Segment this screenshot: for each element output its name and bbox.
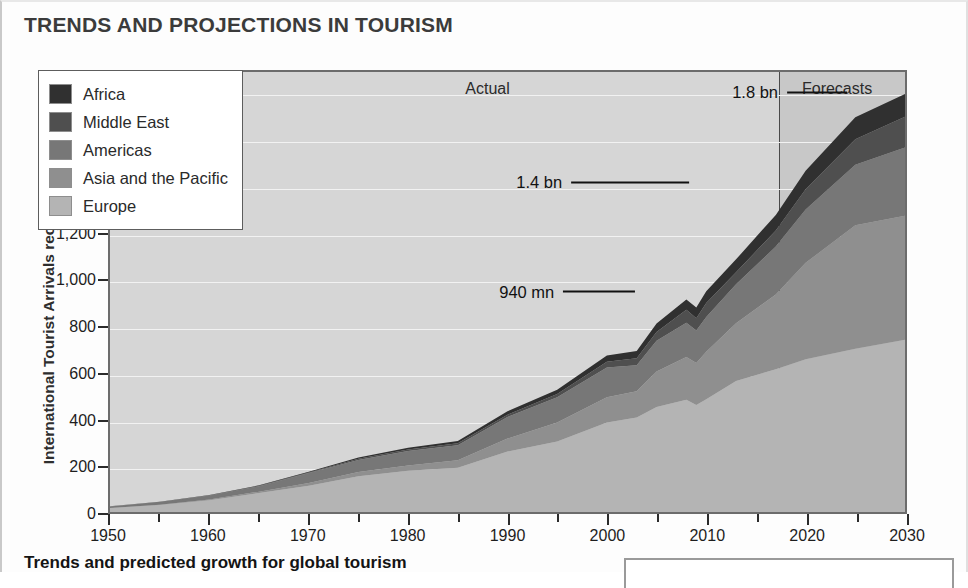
legend-item-label: Europe: [83, 197, 136, 216]
region-label-actual: Actual: [465, 80, 509, 98]
y-axis-tick-mark: [98, 326, 108, 328]
callout-label: 1.4 bn: [516, 173, 562, 192]
legend-item-label: Middle East: [83, 113, 169, 132]
x-axis-tick-mark: [508, 514, 510, 525]
legend-item: Europe: [49, 192, 228, 220]
y-axis-tick-mark: [98, 513, 108, 515]
x-axis-tick-label: 1990: [490, 527, 526, 545]
y-axis-tick-mark: [98, 373, 108, 375]
legend-swatch-icon: [49, 196, 72, 216]
x-axis-minor-tick-mark: [158, 514, 160, 522]
x-axis-tick-mark: [807, 514, 809, 525]
x-axis-tick-mark: [208, 514, 210, 525]
x-axis-tick-label: 2030: [889, 527, 925, 545]
x-axis-tick-label: 2010: [689, 527, 725, 545]
x-axis-tick-label: 1950: [90, 527, 126, 545]
x-axis-tick-mark: [408, 514, 410, 525]
x-axis-tick-label: 2020: [789, 527, 825, 545]
x-axis-minor-tick-mark: [657, 514, 659, 522]
legend-item: Middle East: [49, 108, 228, 136]
caption-side-box: [624, 558, 954, 588]
callout-1-4-bn: 1.4 bn: [516, 173, 689, 192]
y-axis-tick-mark: [98, 466, 108, 468]
legend-swatch-icon: [49, 168, 72, 188]
x-axis-tick-label: 1970: [290, 527, 326, 545]
x-axis-tick-label: 1980: [390, 527, 426, 545]
legend-item: Africa: [49, 80, 228, 108]
x-axis-tick-mark: [308, 514, 310, 525]
callout-940-mn: 940 mn: [499, 282, 635, 301]
chart-legend: AfricaMiddle EastAmericasAsia and the Pa…: [38, 70, 243, 230]
legend-item-label: Africa: [83, 85, 125, 104]
page-title: TRENDS AND PROJECTIONS IN TOURISM: [24, 13, 453, 37]
legend-item: Americas: [49, 136, 228, 164]
figure-caption: Trends and predicted growth for global t…: [24, 553, 407, 573]
chart-container: International Tourist Arrivals received …: [2, 48, 968, 548]
x-axis-tick-mark: [707, 514, 709, 525]
legend-swatch-icon: [49, 84, 72, 104]
legend-item-label: Americas: [83, 141, 152, 160]
y-axis-tick-label: 200: [69, 458, 96, 476]
callout-leader-line: [571, 181, 689, 183]
legend-swatch-icon: [49, 112, 72, 132]
x-axis-tick-label: 2000: [590, 527, 626, 545]
x-axis-tick-mark: [607, 514, 609, 525]
callout-label: 940 mn: [499, 282, 554, 301]
callout-1-8-bn: 1.8 bn: [732, 83, 847, 102]
x-axis-minor-tick-mark: [557, 514, 559, 522]
y-axis-tick-label: 600: [69, 365, 96, 383]
y-axis-tick-label: 1,000: [56, 271, 96, 289]
x-axis-minor-tick-mark: [458, 514, 460, 522]
y-axis-tick-mark: [98, 279, 108, 281]
x-axis-tick-label: 1960: [190, 527, 226, 545]
y-axis-tick-label: 800: [69, 318, 96, 336]
x-axis-minor-tick-mark: [757, 514, 759, 522]
x-axis-tick-mark: [108, 514, 110, 525]
callout-leader-line: [563, 291, 635, 293]
callout-label: 1.8 bn: [732, 83, 778, 102]
y-axis-tick-label: 400: [69, 412, 96, 430]
y-axis-tick-mark: [98, 420, 108, 422]
callout-leader-line: [787, 91, 847, 93]
x-axis-minor-tick-mark: [857, 514, 859, 522]
x-axis-minor-tick-mark: [358, 514, 360, 522]
legend-item-label: Asia and the Pacific: [83, 169, 228, 188]
x-axis-minor-tick-mark: [258, 514, 260, 522]
legend-item: Asia and the Pacific: [49, 164, 228, 192]
legend-swatch-icon: [49, 140, 72, 160]
x-axis-tick-mark: [907, 514, 909, 525]
y-axis-tick-label: 0: [87, 505, 96, 523]
y-axis-tick-mark: [98, 233, 108, 235]
